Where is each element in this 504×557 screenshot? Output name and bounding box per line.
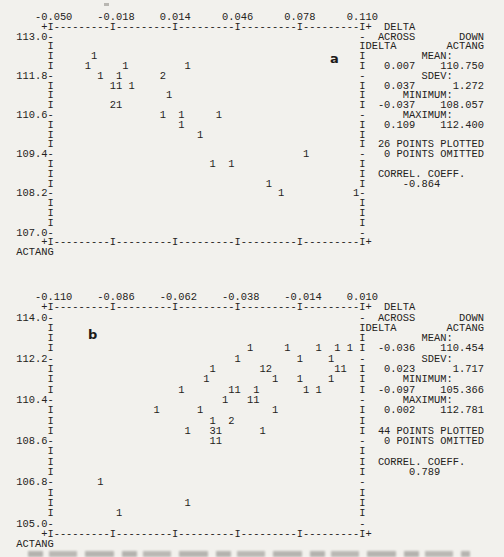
panel-label-a: a (330, 51, 339, 66)
cropped-caption-fragment (28, 551, 470, 557)
panel-label-b: b (88, 327, 97, 342)
scan-speck-artifact (104, 3, 109, 6)
scatter-plot-b-text: -0.110 -0.086 -0.062 -0.038 -0.014 0.010… (10, 292, 484, 549)
scatter-plot-a-text: -0.050 -0.018 0.014 0.046 0.078 0.110 +I… (10, 13, 484, 258)
